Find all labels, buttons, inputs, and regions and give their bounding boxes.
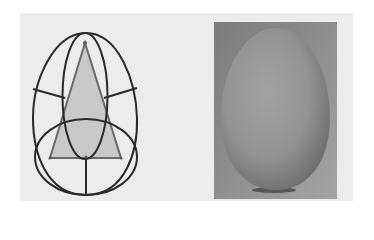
construction-line-left [33, 89, 65, 98]
egg-photo-image [214, 22, 337, 199]
base-point-left [49, 157, 52, 160]
triangle-apex-point [83, 41, 87, 45]
base-point-right [120, 157, 123, 160]
construction-line-right [104, 88, 137, 98]
base-point-center [85, 156, 88, 159]
triangle [50, 43, 121, 158]
egg-photo: Photograph of an egg [214, 22, 337, 199]
